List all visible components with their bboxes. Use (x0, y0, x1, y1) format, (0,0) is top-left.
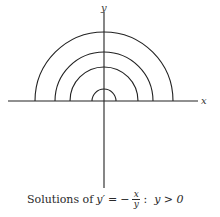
y-axis-label: y (100, 2, 107, 13)
caption-minus: − (120, 193, 129, 206)
figure-caption: Solutions of y′ = − x y : y > 0 (27, 190, 184, 209)
caption-lhs: y′ (96, 193, 105, 206)
caption-colon: : (143, 193, 147, 206)
caption-equals: = (108, 193, 117, 206)
x-axis-label: x (201, 95, 207, 106)
caption-fraction: x y (132, 190, 140, 209)
fraction-denominator: y (134, 200, 139, 209)
fraction-numerator: x (134, 190, 139, 199)
caption-condition: y > 0 (154, 193, 183, 206)
semicircle-solutions-diagram: x y (0, 0, 220, 217)
caption-prefix: Solutions of (27, 193, 93, 206)
